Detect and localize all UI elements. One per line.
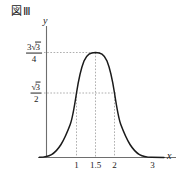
y-tick-label-upper: 3√3 4 — [25, 41, 43, 64]
radical-radicand: 3 — [36, 41, 42, 51]
fraction-numerator: 3√3 — [25, 41, 43, 52]
curve-path — [40, 52, 165, 157]
radical-root3: √3 — [32, 82, 41, 92]
y-axis-label: y — [43, 16, 47, 26]
x-tick-label-1.5: 1.5 — [90, 160, 101, 170]
x-tick-label-3: 3 — [150, 160, 155, 170]
fraction-3root3-over-4: 3√3 4 — [25, 41, 43, 64]
fraction-denominator: 4 — [25, 54, 43, 64]
fraction-numerator: √3 — [30, 82, 43, 93]
y-tick-label-lower: √3 2 — [30, 82, 43, 105]
figure-container: 図Ⅲ y x 1 1.5 2 3 3√3 — [0, 0, 181, 190]
x-tick-label-2: 2 — [112, 160, 117, 170]
x-axis-label: x — [167, 151, 171, 161]
fraction-denominator: 2 — [30, 94, 43, 104]
radical-radicand: 3 — [36, 82, 42, 92]
radical-3root3: 3√3 — [27, 41, 41, 51]
x-tick-label-1: 1 — [74, 160, 79, 170]
fraction-root3-over-2: √3 2 — [30, 82, 43, 105]
